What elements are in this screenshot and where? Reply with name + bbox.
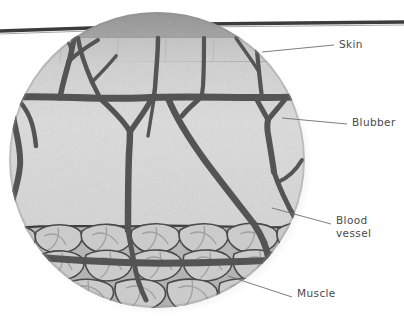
- label-skin: Skin: [339, 38, 363, 51]
- vessel-y1-trunk: [128, 130, 130, 230]
- label-muscle: Muscle: [297, 287, 336, 300]
- leader-line-skin: [262, 45, 334, 52]
- diagram-canvas: Skin Blubber Blood vessel Muscle: [0, 0, 404, 328]
- vessel-far-right-upper: [292, 48, 298, 96]
- label-blubber: Blubber: [352, 116, 396, 129]
- vessel-skin-descender-2: [202, 38, 204, 98]
- vessel-trunk-upper: [0, 96, 320, 98]
- label-blood-vessel: Blood vessel: [336, 214, 371, 240]
